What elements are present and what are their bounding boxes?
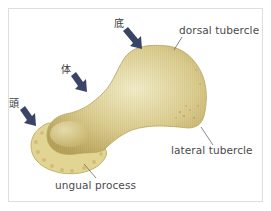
leader-lateral-tubercle (201, 127, 213, 145)
arrow-head-icon (20, 106, 36, 126)
label-ungual-process: ungual process (55, 179, 136, 191)
arrow-label-base: 底 (114, 15, 124, 30)
label-lateral-tubercle: lateral tubercle (171, 144, 253, 156)
label-dorsal-tubercle: dorsal tubercle (179, 24, 259, 36)
arrow-base-icon (123, 27, 142, 49)
leader-dorsal-tubercle (174, 37, 182, 50)
arrow-body-icon (71, 72, 87, 92)
arrow-label-body: 体 (61, 61, 71, 76)
arrow-label-head: 頭 (9, 95, 19, 110)
